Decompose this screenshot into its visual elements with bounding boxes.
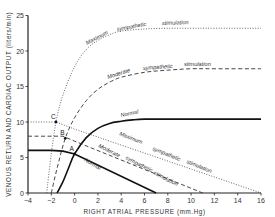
- curve-labels: MaximumsympatheticstimulationModeratesym…: [84, 19, 213, 187]
- y-tick-label: 20: [16, 48, 24, 55]
- chart: −4−202468101214160510152025RIGHT ATRIAL …: [0, 0, 275, 217]
- x-tick-label: 0: [73, 197, 77, 204]
- x-tick-label: 6: [143, 197, 147, 204]
- cardiac-output-curve-solid: [57, 119, 261, 193]
- point-c: [55, 121, 58, 124]
- y-tick-label: 15: [16, 83, 24, 90]
- x-tick-label: 16: [257, 197, 265, 204]
- label-vr-maximum: Maximum: [119, 130, 144, 145]
- x-tick-label: −4: [24, 197, 32, 204]
- point-label-c: C: [51, 113, 56, 120]
- point-a: [73, 153, 76, 156]
- y-axis-label: VENOUS RETURN AND CARDIAC OUTPUT (liters…: [5, 12, 13, 197]
- label-co-normal: Normal: [120, 108, 140, 118]
- label-vr-moderate: Moderate: [98, 143, 122, 159]
- point-label-b: B: [60, 129, 64, 136]
- venous-return-curve-solid: [28, 150, 156, 193]
- x-tick-label: 10: [187, 197, 195, 204]
- x-axis-label: RIGHT ATRIAL PRESSURE (mm.Hg): [83, 208, 205, 216]
- chart-svg: −4−202468101214160510152025RIGHT ATRIAL …: [0, 0, 275, 217]
- x-tick-label: 8: [166, 197, 170, 204]
- point-b: [64, 137, 67, 140]
- label-co-maximum: stimulation: [162, 19, 189, 26]
- y-tick-label: 5: [20, 154, 24, 161]
- x-tick-label: 14: [234, 197, 242, 204]
- label-co-moderate: stimulation: [184, 61, 211, 67]
- x-tick-label: 4: [119, 197, 123, 204]
- y-tick-label: 25: [16, 12, 24, 19]
- label-vr-maximum: sympathetic: [152, 145, 182, 162]
- y-tick-label: 10: [16, 119, 24, 126]
- label-vr-normal: Normal: [84, 157, 103, 172]
- x-tick-label: −2: [47, 197, 55, 204]
- label-co-maximum: sympathetic: [116, 21, 147, 32]
- label-vr-moderate: sympathetic: [125, 155, 154, 174]
- equilibrium-points: ABC: [51, 113, 76, 155]
- x-tick-label: 12: [211, 197, 219, 204]
- point-label-a: A: [70, 145, 75, 152]
- x-tick-label: 2: [96, 197, 100, 204]
- y-tick-label: 0: [20, 190, 24, 197]
- label-vr-moderate: stimulation: [153, 170, 180, 187]
- label-co-maximum: Maximum: [85, 29, 110, 46]
